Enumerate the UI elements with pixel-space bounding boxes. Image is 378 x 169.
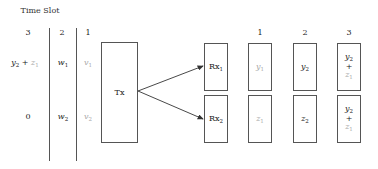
rx2-slot1-box: z1 <box>248 95 272 143</box>
broadcast-arrows <box>0 0 378 169</box>
receiver-1-label: Rx1 <box>209 62 223 72</box>
rx2-slot3-box: y2 + z1 <box>337 95 361 143</box>
receiver-2-label: Rx2 <box>209 114 223 124</box>
rx1-slot2-box: y2 <box>293 43 317 91</box>
received-col-2: 2 <box>293 28 317 37</box>
received-col-3: 3 <box>337 28 361 37</box>
arrow-to-rx2 <box>138 91 203 119</box>
receiver-1-box: Rx1 <box>204 43 228 91</box>
received-col-1: 1 <box>248 28 272 37</box>
rx2-slot2-box: z2 <box>293 95 317 143</box>
arrow-to-rx1 <box>138 66 203 91</box>
receiver-2-box: Rx2 <box>204 95 228 143</box>
rx1-slot1-box: y1 <box>248 43 272 91</box>
rx1-slot3-box: y2 + z1 <box>337 43 361 91</box>
